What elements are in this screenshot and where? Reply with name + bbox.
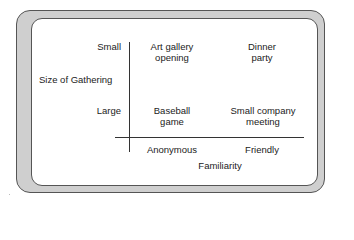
- x-axis-line: [115, 137, 304, 138]
- y-axis-line: [129, 42, 130, 152]
- scan-speck: [9, 194, 10, 195]
- cell-line: opening: [134, 52, 210, 63]
- y-tick-small: Small: [97, 41, 121, 52]
- x-tick-anonymous: Anonymous: [134, 144, 210, 155]
- cell-line: Dinner: [224, 41, 300, 52]
- cell-large-anonymous: Baseball game: [134, 105, 210, 127]
- y-tick-large: Large: [97, 105, 121, 116]
- x-axis-title: Familiarity: [180, 160, 260, 171]
- cell-line: party: [224, 52, 300, 63]
- cell-large-friendly: Small company meeting: [218, 105, 308, 127]
- cell-line: Art gallery: [134, 41, 210, 52]
- cell-line: Baseball: [134, 105, 210, 116]
- x-tick-friendly: Friendly: [224, 144, 300, 155]
- cell-small-friendly: Dinner party: [224, 41, 300, 63]
- cell-small-anonymous: Art gallery opening: [134, 41, 210, 63]
- y-axis-title: Size of Gathering: [39, 74, 112, 85]
- cell-line: Small company: [218, 105, 308, 116]
- cell-line: game: [134, 116, 210, 127]
- cell-line: meeting: [218, 116, 308, 127]
